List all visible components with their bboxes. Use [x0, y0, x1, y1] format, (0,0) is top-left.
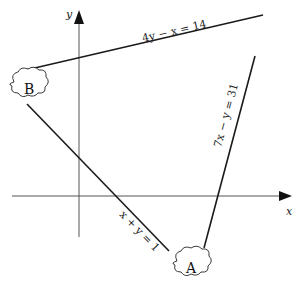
- line-x-plus-y-label: x + y = 1: [117, 208, 162, 254]
- line-4y-minus-x-label: 4y − x = 14: [141, 17, 208, 44]
- line-7x-minus-y-label: 7x − y = 31: [211, 82, 241, 149]
- line-7x-minus-y-31: 7x − y = 31: [204, 56, 255, 248]
- point-b-label: B: [24, 81, 34, 97]
- line-x-plus-y-1: x + y = 1: [27, 104, 169, 254]
- x-axis-label: x: [286, 205, 293, 218]
- point-b-cloud: B: [10, 67, 48, 97]
- y-axis: y: [65, 8, 84, 237]
- y-axis-label: y: [65, 8, 73, 21]
- x-axis-arrow-icon: [279, 191, 292, 201]
- coordinate-diagram: x y 4y − x = 14 x + y = 1 7x − y = 31 B …: [0, 0, 305, 284]
- y-axis-arrow-icon: [74, 10, 84, 24]
- x-axis: x: [12, 191, 293, 218]
- line-4y-minus-x-14: 4y − x = 14: [26, 15, 263, 70]
- point-a-cloud: A: [173, 246, 211, 276]
- point-a-label: A: [185, 260, 197, 276]
